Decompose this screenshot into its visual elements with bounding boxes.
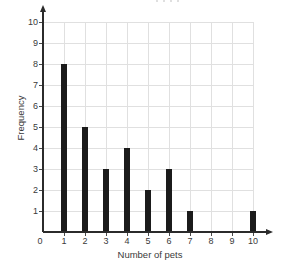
bar-1-pets xyxy=(61,64,67,232)
gridline xyxy=(43,169,253,170)
x-tick-label: 5 xyxy=(138,236,158,247)
gridline xyxy=(43,85,253,86)
y-tick-label: 4 xyxy=(21,143,38,154)
y-tick-label: 8 xyxy=(21,59,38,70)
gridline xyxy=(253,22,254,232)
y-tick-label: 2 xyxy=(21,185,38,196)
x-axis-arrowhead-icon xyxy=(266,229,273,235)
bar-chart-figure: 01234567891012345678910 Frequency Number… xyxy=(0,0,283,268)
x-tick-label: 4 xyxy=(117,236,137,247)
bar-5-pets xyxy=(145,190,151,232)
bar-10-pets xyxy=(250,211,256,232)
x-axis-line xyxy=(43,231,267,232)
x-tick-label: 0 xyxy=(30,236,50,247)
bar-4-pets xyxy=(124,148,130,232)
x-tick-label: 2 xyxy=(75,236,95,247)
bar-6-pets xyxy=(166,169,172,232)
y-tick-label: 1 xyxy=(21,206,38,217)
bar-7-pets xyxy=(187,211,193,232)
gridline xyxy=(43,106,253,107)
gridline xyxy=(43,148,253,149)
x-tick-label: 7 xyxy=(180,236,200,247)
y-tick-label: 10 xyxy=(21,17,38,28)
x-tick-label: 1 xyxy=(54,236,74,247)
y-axis-title: Frequency xyxy=(15,96,26,141)
y-tick-label: 9 xyxy=(21,38,38,49)
x-tick-label: 3 xyxy=(96,236,116,247)
x-axis-title: Number of pets xyxy=(118,249,183,260)
x-tick-label: 10 xyxy=(243,236,263,247)
bar-3-pets xyxy=(103,169,109,232)
y-axis-line xyxy=(42,12,43,232)
gridline xyxy=(43,22,253,23)
bar-2-pets xyxy=(82,127,88,232)
y-tick-label: 7 xyxy=(21,80,38,91)
gridline xyxy=(43,64,253,65)
x-tick-label: 9 xyxy=(222,236,242,247)
x-tick-label: 6 xyxy=(159,236,179,247)
x-tick-label: 8 xyxy=(201,236,221,247)
gridline xyxy=(43,43,253,44)
y-tick-label: 3 xyxy=(21,164,38,175)
gridline xyxy=(43,127,253,128)
y-axis-arrowhead-icon xyxy=(40,5,46,12)
